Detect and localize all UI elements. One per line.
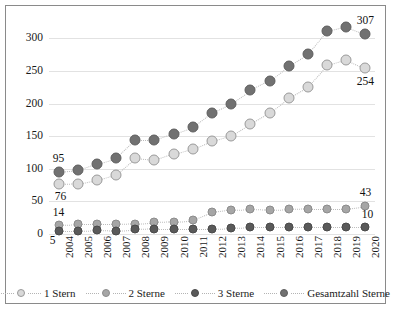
data-point <box>53 179 64 190</box>
data-point <box>246 223 255 232</box>
data-point <box>131 225 140 234</box>
data-point <box>111 169 122 180</box>
data-point-label: 254 <box>357 77 374 89</box>
data-point <box>264 107 275 118</box>
data-point <box>92 226 101 235</box>
legend-marker-icon <box>280 289 288 297</box>
data-point <box>302 81 313 92</box>
x-axis-tick-label: 2018 <box>332 236 343 258</box>
x-axis-tick-label: 2020 <box>370 236 381 258</box>
gridline <box>49 104 375 105</box>
data-point <box>264 75 275 86</box>
data-point <box>322 60 333 71</box>
legend-dash-icon <box>202 293 215 294</box>
x-axis-tick-label: 2008 <box>140 236 151 258</box>
x-axis-tick-label: 2005 <box>83 236 94 258</box>
y-axis-tick-label: 250 <box>26 65 43 77</box>
y-axis-tick-label: 100 <box>26 163 43 175</box>
data-point <box>323 223 332 232</box>
x-axis-tick-label: 2010 <box>179 236 190 258</box>
legend-dash-icon <box>175 293 188 294</box>
data-point <box>207 135 218 146</box>
data-point <box>283 60 294 71</box>
data-point <box>284 223 293 232</box>
x-axis-tick-label: 2013 <box>236 236 247 258</box>
data-point <box>303 223 312 232</box>
data-point <box>284 205 293 214</box>
data-point <box>342 223 351 232</box>
data-point <box>245 85 256 96</box>
data-point <box>226 98 237 109</box>
data-point-label: 14 <box>53 207 65 219</box>
data-point-label: 307 <box>357 15 374 27</box>
data-point <box>72 165 83 176</box>
data-point-label: 76 <box>55 192 67 204</box>
legend-marker-icon <box>17 289 25 297</box>
data-point <box>208 208 217 217</box>
data-point <box>187 122 198 133</box>
x-axis-tick-label: 2007 <box>121 236 132 258</box>
x-axis-tick-label: 2016 <box>294 236 305 258</box>
legend-dash-icon <box>291 293 304 294</box>
data-point <box>91 174 102 185</box>
data-point <box>130 135 141 146</box>
legend-marker-icon <box>191 289 199 297</box>
legend-dash-icon <box>28 293 41 294</box>
legend-marker-icon <box>102 289 110 297</box>
data-point <box>150 224 159 233</box>
legend-dash-icon <box>1 293 14 294</box>
legend-label: 3 Sterne <box>218 287 254 299</box>
x-axis-tick-label: 2011 <box>198 236 209 258</box>
legend-dash-icon <box>264 293 277 294</box>
y-axis-tick-label: 150 <box>26 130 43 142</box>
gridline <box>49 201 375 202</box>
data-point <box>168 128 179 139</box>
y-axis-tick-label: 0 <box>37 228 43 240</box>
data-point <box>53 167 64 178</box>
data-point <box>187 143 198 154</box>
data-point <box>73 226 82 235</box>
legend-item-2-sterne[interactable]: 2 Sterne <box>86 287 165 299</box>
x-axis-tick-label: 2014 <box>255 236 266 258</box>
gridline <box>49 38 375 39</box>
legend-item-3-sterne[interactable]: 3 Sterne <box>175 287 254 299</box>
legend-item-1-stern[interactable]: 1 Stern <box>1 287 75 299</box>
legend-dash-icon <box>86 293 99 294</box>
legend-item-gesamtzahl-sterne[interactable]: Gesamtzahl Sterne <box>264 287 390 299</box>
gridline <box>49 71 375 72</box>
data-point <box>188 224 197 233</box>
x-axis-tick-label: 2017 <box>313 236 324 258</box>
data-point <box>226 130 237 141</box>
data-point-label: 43 <box>360 187 372 199</box>
data-point <box>111 153 122 164</box>
data-point <box>227 224 236 233</box>
data-point <box>245 118 256 129</box>
chart-legend: 1 Stern2 Sterne3 SterneGesamtzahl Sterne <box>6 283 385 303</box>
data-point <box>265 223 274 232</box>
data-point <box>207 107 218 118</box>
data-point <box>246 205 255 214</box>
data-point <box>342 204 351 213</box>
data-point <box>323 204 332 213</box>
data-point-label: 95 <box>53 153 65 165</box>
x-axis-labels: 2004200520062007200820092010201120122013… <box>49 236 375 280</box>
y-axis-tick-label: 50 <box>32 196 44 208</box>
data-point <box>341 54 352 65</box>
data-point <box>227 205 236 214</box>
data-point <box>149 135 160 146</box>
data-point <box>72 178 83 189</box>
data-point <box>360 28 371 39</box>
x-axis-tick-label: 2009 <box>159 236 170 258</box>
y-axis-tick-label: 300 <box>26 33 43 45</box>
data-point <box>112 226 121 235</box>
plot-area: 050100150200250300 95761453072544310 <box>49 22 375 234</box>
data-point <box>302 48 313 59</box>
data-point <box>361 223 370 232</box>
x-axis-tick-label: 2012 <box>217 236 228 258</box>
legend-label: 1 Stern <box>44 287 75 299</box>
legend-label: Gesamtzahl Sterne <box>307 287 390 299</box>
data-point <box>168 148 179 159</box>
x-axis-tick-label: 2004 <box>64 236 75 258</box>
data-point <box>283 92 294 103</box>
data-point-label: 10 <box>362 210 374 222</box>
